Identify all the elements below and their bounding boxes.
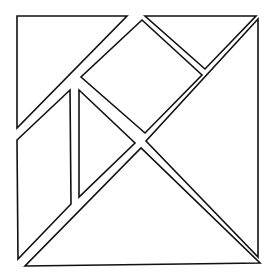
tangram-diagram	[0, 0, 279, 279]
